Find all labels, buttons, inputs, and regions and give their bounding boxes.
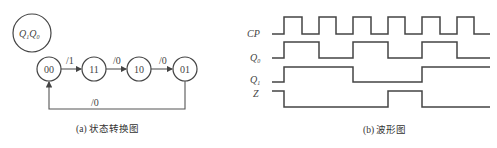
state-diagram: Q1Q0 00 11 10 01 /1 /0 /0 /0 (a) 状态转换图	[13, 14, 197, 135]
waveform-q1	[272, 67, 490, 82]
transition-label-00-11: /1	[66, 55, 74, 66]
waveform-z	[272, 91, 490, 107]
state-11-label: 11	[89, 64, 99, 75]
signal-label-z: Z	[253, 88, 259, 99]
waveform-cp	[272, 17, 490, 34]
state-01-label: 01	[180, 64, 190, 75]
waveform-q0	[272, 42, 490, 58]
transition-label-11-10: /0	[113, 55, 121, 66]
legend-label: Q1Q0	[19, 28, 39, 40]
signal-label-cp: CP	[247, 28, 260, 39]
caption-state-diagram: (a) 状态转换图	[76, 123, 139, 135]
transition-arrow-01-00	[49, 81, 185, 109]
signal-label-q1: Q1	[250, 74, 260, 86]
figure: Q1Q0 00 11 10 01 /1 /0 /0 /0 (a) 状态转换图 C…	[0, 0, 497, 148]
state-10-label: 10	[134, 64, 144, 75]
transition-label-01-00: /0	[91, 97, 99, 108]
state-00-label: 00	[44, 64, 54, 75]
signal-label-q0: Q0	[250, 52, 260, 64]
caption-waveform: (b) 波形图	[363, 124, 406, 136]
waveform-diagram: CP Q0 Q1 Z (b) 波形图	[247, 17, 490, 136]
transition-label-10-01: /0	[159, 55, 167, 66]
